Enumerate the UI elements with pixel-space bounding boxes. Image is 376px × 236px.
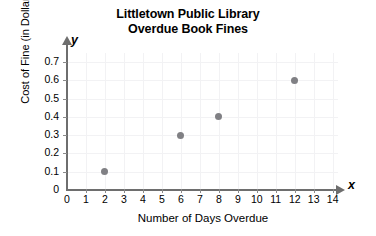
gridline-vertical <box>219 53 220 190</box>
y-axis-tick-label: 0.1 <box>33 165 59 177</box>
data-point <box>215 113 222 120</box>
y-axis-tick-label: 0.3 <box>33 128 59 140</box>
gridline-horizontal <box>67 153 338 154</box>
gridline-vertical <box>295 53 296 190</box>
y-axis-tick-label: 0.6 <box>33 73 59 85</box>
x-axis-title: Number of Days Overdue <box>40 212 366 224</box>
gridline-vertical <box>200 53 201 190</box>
plot-area <box>67 53 338 190</box>
gridline-horizontal <box>67 62 338 63</box>
y-axis-tick-label: 0.2 <box>33 146 59 158</box>
gridline-vertical <box>86 53 87 190</box>
gridline-horizontal <box>67 135 338 136</box>
data-point <box>101 168 108 175</box>
y-axis-tick <box>63 80 67 81</box>
y-axis-tick-label: 0.7 <box>33 55 59 67</box>
scatter-plot-figure: Littletown Public Library Overdue Book F… <box>0 0 376 236</box>
gridline-vertical <box>162 53 163 190</box>
gridline-vertical <box>181 53 182 190</box>
y-axis-tick-label: 0.5 <box>33 92 59 104</box>
y-axis-tick <box>63 99 67 100</box>
gridline-vertical <box>314 53 315 190</box>
y-axis-tick <box>63 172 67 173</box>
gridline-vertical <box>143 53 144 190</box>
gridline-vertical <box>238 53 239 190</box>
y-axis-variable-label: y <box>71 33 78 47</box>
gridline-vertical <box>276 53 277 190</box>
gridline-vertical <box>124 53 125 190</box>
data-point <box>177 132 184 139</box>
data-point <box>291 77 298 84</box>
chart-title: Littletown Public Library Overdue Book F… <box>0 7 376 37</box>
chart-title-line-1: Littletown Public Library <box>0 7 376 22</box>
y-axis-tick <box>63 153 67 154</box>
x-axis-tick-label: 14 <box>321 193 345 205</box>
x-axis-variable-label: x <box>348 178 355 192</box>
chart-title-line-2: Overdue Book Fines <box>0 22 376 37</box>
gridline-horizontal <box>67 99 338 100</box>
x-axis-line <box>66 189 338 191</box>
y-axis-tick <box>63 117 67 118</box>
gridline-horizontal <box>67 117 338 118</box>
y-axis-tick <box>63 62 67 63</box>
y-axis-title: Cost of Fine (in Dollars) <box>17 0 33 121</box>
y-axis-tick-label: 0.4 <box>33 110 59 122</box>
gridline-vertical <box>333 53 334 190</box>
y-axis-tick <box>63 135 67 136</box>
gridline-vertical <box>257 53 258 190</box>
